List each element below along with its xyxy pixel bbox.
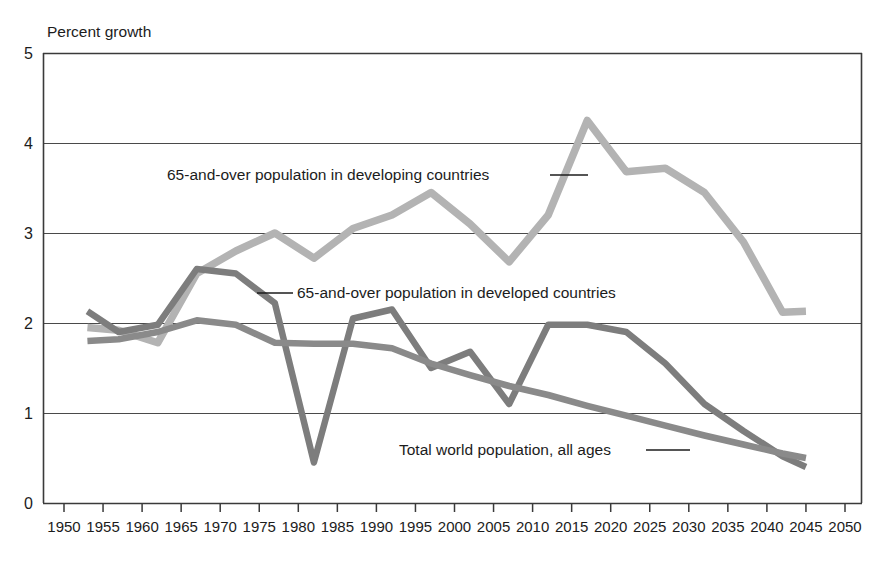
- chart-canvas: Percent growth 012345 195019551960196519…: [0, 0, 896, 568]
- x-tick-label-1980: 1980: [282, 518, 315, 535]
- x-tick-labels: 1950195519601965197019751980198519901995…: [47, 518, 861, 535]
- plot-frame: [43, 53, 862, 504]
- annotation-developing: 65-and-over population in developing cou…: [167, 166, 490, 183]
- annotation-world: Total world population, all ages: [399, 441, 611, 458]
- x-tick-label-2045: 2045: [789, 518, 822, 535]
- x-tick-label-1960: 1960: [125, 518, 158, 535]
- x-tick-label-2035: 2035: [711, 518, 744, 535]
- x-tick-label-2025: 2025: [633, 518, 666, 535]
- x-tick-label-1955: 1955: [86, 518, 119, 535]
- x-tick-label-1990: 1990: [360, 518, 393, 535]
- y-tick-label-0: 0: [24, 495, 33, 512]
- x-tick-label-2050: 2050: [828, 518, 861, 535]
- x-tick-label-2005: 2005: [477, 518, 510, 535]
- growth-chart: Percent growth 012345 195019551960196519…: [0, 0, 896, 568]
- x-tick-label-1985: 1985: [321, 518, 354, 535]
- y-tick-label-3: 3: [24, 225, 33, 242]
- x-tick-label-2020: 2020: [594, 518, 627, 535]
- series-line-0: [87, 121, 806, 343]
- y-tick-label-5: 5: [24, 45, 33, 62]
- x-tick-label-2010: 2010: [516, 518, 549, 535]
- series-line-2: [87, 320, 806, 458]
- x-tick-label-1995: 1995: [399, 518, 432, 535]
- y-tick-label-1: 1: [24, 405, 33, 422]
- y-tick-label-2: 2: [24, 315, 33, 332]
- y-tick-labels: 012345: [24, 45, 33, 512]
- x-tick-label-1950: 1950: [47, 518, 80, 535]
- x-tick-label-1970: 1970: [204, 518, 237, 535]
- annotation-developed: 65-and-over population in developed coun…: [297, 284, 616, 301]
- y-axis-title: Percent growth: [47, 23, 151, 40]
- x-tick-label-1965: 1965: [164, 518, 197, 535]
- x-tick-label-2040: 2040: [750, 518, 783, 535]
- y-tick-label-4: 4: [24, 135, 33, 152]
- x-tick-marks: [64, 503, 845, 512]
- x-tick-label-2030: 2030: [672, 518, 705, 535]
- x-tick-label-1975: 1975: [243, 518, 276, 535]
- x-tick-label-2000: 2000: [438, 518, 471, 535]
- x-tick-label-2015: 2015: [555, 518, 588, 535]
